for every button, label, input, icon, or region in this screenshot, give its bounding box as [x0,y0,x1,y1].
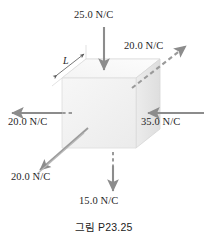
figure-container: 25.0 N/C 20.0 N/C 20.0 N/C 35.0 N/C 20.0… [0,0,207,246]
field-label-top: 25.0 N/C [74,10,113,21]
field-label-left: 20.0 N/C [8,117,47,128]
field-label-bottom: 15.0 N/C [79,196,118,207]
cube-face-front [62,78,136,148]
field-label-right: 35.0 N/C [141,117,180,128]
figure-caption: 그림 P23.25 [0,219,207,234]
field-label-bottom-left: 20.0 N/C [11,172,50,183]
dimension-label-L: L [63,56,69,66]
cube-solid [62,59,160,148]
field-label-top-right: 20.0 N/C [124,41,163,52]
